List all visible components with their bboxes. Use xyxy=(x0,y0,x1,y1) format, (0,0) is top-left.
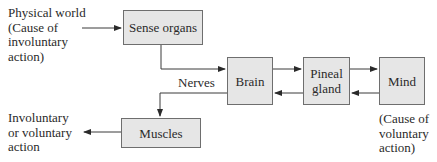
action-output-label: Involuntary or voluntary action xyxy=(8,111,72,155)
sense-organs-box: Sense organs xyxy=(123,10,203,45)
muscles-text: Muscles xyxy=(139,126,182,141)
pineal-gland-text: Pineal gland xyxy=(310,66,343,96)
pineal-gland-box: Pineal gland xyxy=(303,57,350,105)
muscles-box: Muscles xyxy=(121,118,201,148)
mind-text: Mind xyxy=(388,74,416,89)
physical-world-label: Physical world (Cause of involuntary act… xyxy=(8,6,86,64)
brain-box: Brain xyxy=(227,57,273,105)
nerves-label: Nerves xyxy=(178,76,215,91)
sense-organs-text: Sense organs xyxy=(129,20,197,35)
brain-text: Brain xyxy=(236,74,265,89)
mind-box: Mind xyxy=(379,57,425,105)
mind-cause-label: (Cause of voluntary action) xyxy=(379,112,429,156)
